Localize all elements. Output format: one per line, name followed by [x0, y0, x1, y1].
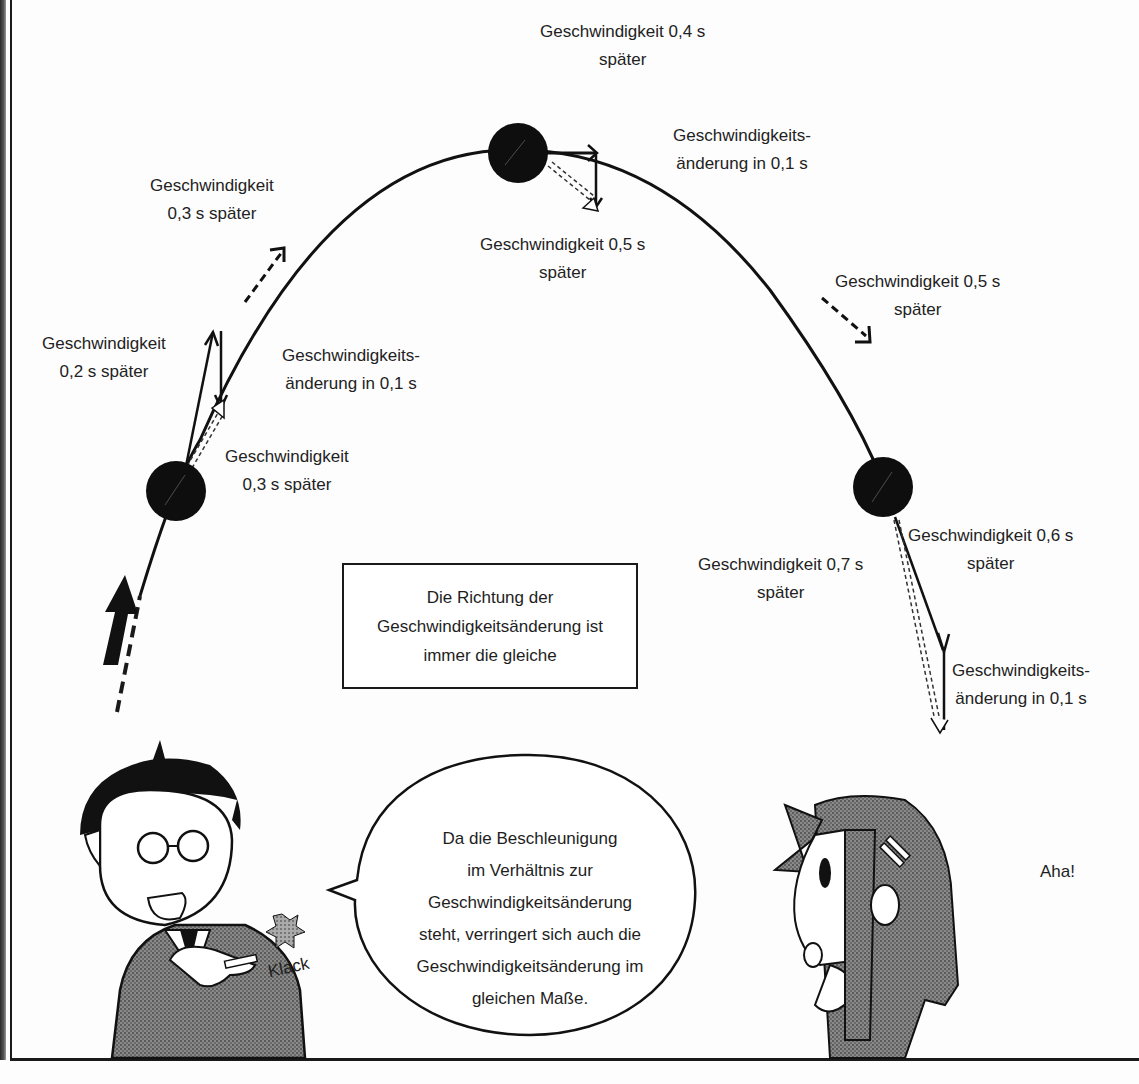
student-character	[775, 796, 958, 1058]
ball-left	[146, 461, 206, 521]
label-velocity-0-6s: Geschwindigkeit 0,6 sspäter	[908, 522, 1073, 578]
label-velocity-0-3s-top: Geschwindigkeit0,3 s später	[150, 172, 274, 228]
teacher-character	[80, 740, 305, 1058]
label-velocity-0-4s: Geschwindigkeit 0,4 sspäter	[540, 18, 705, 74]
label-velocity-change-right: Geschwindigkeits-änderung in 0,1 s	[952, 657, 1090, 713]
launch-arrow	[103, 575, 140, 712]
label-velocity-0-3s-low: Geschwindigkeit0,3 s später	[225, 443, 349, 499]
comic-panel: Geschwindigkeit0,3 s später Geschwindigk…	[0, 0, 1139, 1084]
sfx-aha: Aha!	[1040, 862, 1075, 882]
ball-top	[488, 123, 548, 183]
label-velocity-0-7s: Geschwindigkeit 0,7 sspäter	[698, 551, 863, 607]
label-velocity-0-2s: Geschwindigkeit0,2 s später	[42, 330, 166, 386]
label-velocity-change-top: Geschwindigkeits-änderung in 0,1 s	[673, 122, 811, 178]
label-velocity-0-5s-top: Geschwindigkeit 0,5 sspäter	[480, 231, 645, 287]
caption-box: Die Richtung der Geschwindigkeitsänderun…	[342, 563, 638, 689]
label-velocity-0-5s-right: Geschwindigkeit 0,5 sspäter	[835, 268, 1000, 324]
ball-right	[853, 457, 913, 517]
speech-bubble-text: Da die Beschleunigung im Verhältnis zur …	[380, 823, 680, 1015]
label-velocity-change-left: Geschwindigkeits-änderung in 0,1 s	[282, 342, 420, 398]
